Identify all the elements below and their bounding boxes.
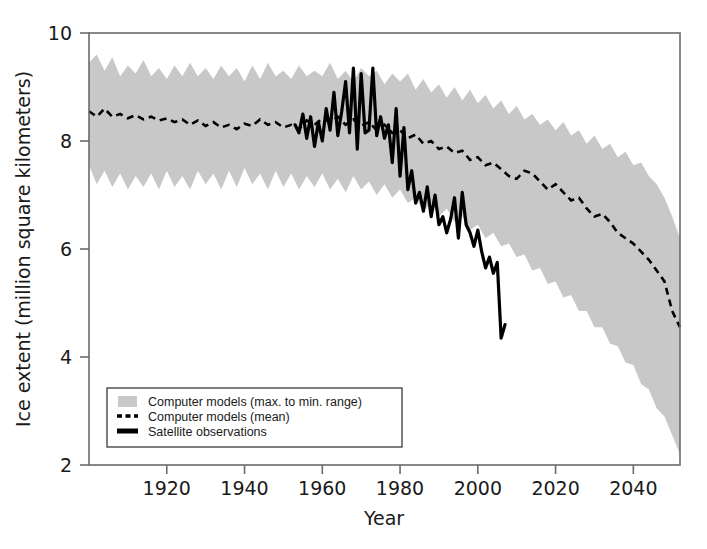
band-swatch <box>118 396 137 407</box>
x-tick-label: 1960 <box>298 477 346 499</box>
x-tick-label: 1940 <box>220 477 268 499</box>
x-axis-ticks <box>167 465 634 474</box>
y-tick-label: 8 <box>60 130 72 152</box>
y-tick-label: 10 <box>48 22 72 44</box>
chart-legend: Computer models (max. to min. range) Com… <box>107 388 402 447</box>
ice-extent-chart: 1920194019601980200020202040 246810 Year… <box>0 0 707 549</box>
y-tick-label: 6 <box>60 238 72 260</box>
y-tick-label: 4 <box>60 346 72 368</box>
x-tick-label: 2020 <box>531 477 579 499</box>
y-axis-title: Ice extent (million square kilometers) <box>12 71 34 427</box>
x-tick-label: 1920 <box>143 477 191 499</box>
x-tick-label: 2040 <box>609 477 657 499</box>
legend-label-satellite: Satellite observations <box>148 425 267 439</box>
legend-label-model-mean: Computer models (mean) <box>148 410 290 424</box>
x-axis-title: Year <box>363 507 404 529</box>
legend-label-model-range: Computer models (max. to min. range) <box>148 395 362 409</box>
x-tick-label: 1980 <box>376 477 424 499</box>
y-axis-tick-labels: 246810 <box>48 22 72 476</box>
y-axis-ticks <box>80 33 89 465</box>
chart-figure: 1920194019601980200020202040 246810 Year… <box>0 0 707 549</box>
x-axis-tick-labels: 1920194019601980200020202040 <box>143 477 658 499</box>
x-tick-label: 2000 <box>454 477 502 499</box>
y-tick-label: 2 <box>60 454 72 476</box>
